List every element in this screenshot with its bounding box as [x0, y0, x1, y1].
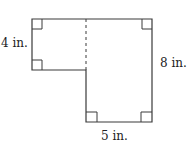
right-height-label: 8 in. [160, 57, 187, 69]
left-height-label: 4 in. [1, 37, 28, 49]
figure-outline [32, 19, 152, 122]
right-angle-marker-top-right [142, 19, 152, 29]
bottom-width-label: 5 in. [101, 130, 128, 142]
right-angle-marker-top-left [32, 19, 42, 29]
right-angle-marker-bottom-left [32, 60, 42, 70]
right-angle-marker-lower-left [86, 112, 97, 122]
right-angle-marker-lower-right [141, 112, 152, 122]
composite-figure [0, 0, 196, 164]
